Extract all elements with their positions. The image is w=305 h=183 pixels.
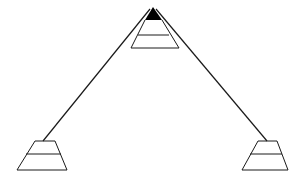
- left-trapezoid: [17, 141, 67, 170]
- left-cable: [43, 9, 150, 141]
- right-trapezoid: [242, 141, 288, 170]
- right-weight-stack: [242, 141, 288, 170]
- left-weight-stack: [17, 141, 67, 170]
- cable-weight-diagram: [0, 0, 305, 183]
- right-cable: [156, 9, 267, 141]
